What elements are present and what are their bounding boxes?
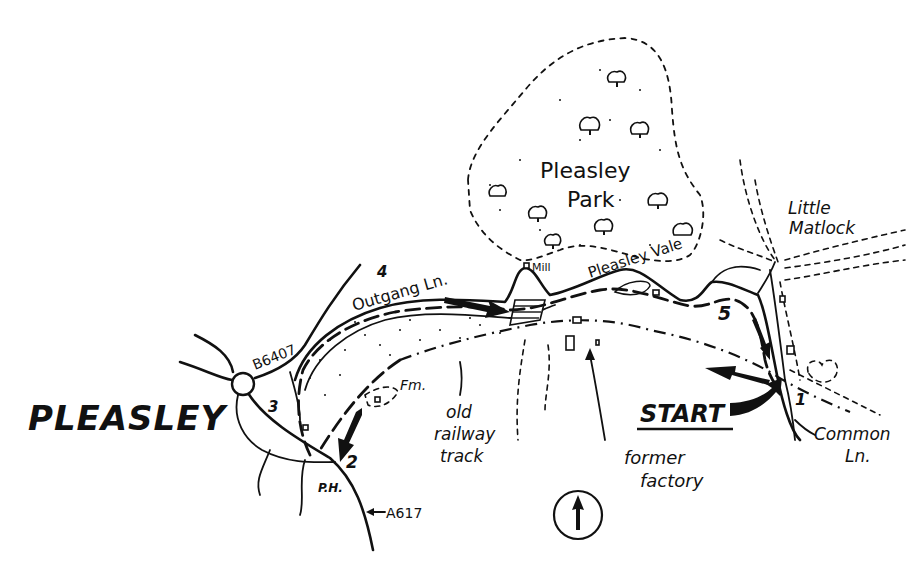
railway-label-1: old <box>446 402 472 422</box>
waypoint-1: 1 <box>795 390 806 409</box>
common-label-1: Common <box>814 424 891 444</box>
railway-pointer <box>460 362 462 395</box>
matlock-label: Matlock <box>789 218 856 238</box>
road-west-2 <box>180 362 232 380</box>
factory-label-1: former <box>624 447 686 468</box>
building <box>573 317 581 323</box>
building <box>375 397 380 402</box>
railway-to-farm <box>320 360 400 450</box>
park-label-2: Park <box>567 187 615 212</box>
building <box>780 296 785 302</box>
start-label: START <box>640 400 726 428</box>
road-spur <box>258 450 270 495</box>
park-boundary <box>468 38 703 261</box>
footpath <box>720 240 775 262</box>
waypoint-2: 2 <box>346 452 358 472</box>
road-spur <box>300 460 305 515</box>
building <box>596 340 599 345</box>
road-little-matlock <box>712 267 760 282</box>
north-arrow-icon <box>572 495 584 530</box>
tree-icon <box>631 122 649 138</box>
a617-label: A617 <box>386 505 422 521</box>
tree-icon <box>673 223 692 235</box>
footpath <box>545 345 549 410</box>
pond-outline <box>808 360 838 382</box>
waypoint-3: 3 <box>268 398 278 416</box>
farm-boundary <box>365 387 398 406</box>
footpath <box>755 180 778 262</box>
railway-label-2: railway <box>434 424 496 444</box>
tree-icon <box>489 185 506 196</box>
factory-pointer-head <box>585 348 595 360</box>
building <box>787 346 794 354</box>
common-lane-pointer <box>795 420 815 435</box>
walk-map: PLEASLEY Pleasley Park Pleasley Vale Lit… <box>0 0 909 577</box>
roundabout <box>232 373 254 395</box>
tree-icon <box>608 71 626 87</box>
arrow-west <box>705 366 770 385</box>
tree-icon <box>648 193 667 209</box>
building <box>303 425 308 430</box>
footpath <box>517 340 525 440</box>
a617-pointer-head <box>366 508 374 516</box>
mill-label: Mill <box>532 261 551 274</box>
road-west-1 <box>195 335 233 372</box>
vale-label: Pleasley Vale <box>586 234 685 281</box>
pub-label: P.H. <box>318 481 343 495</box>
mill-pond <box>510 300 545 325</box>
factory-label-2: factory <box>640 470 704 491</box>
building <box>524 263 529 268</box>
building <box>566 336 574 350</box>
waypoint-4: 4 <box>376 263 387 281</box>
building <box>653 290 659 295</box>
town-label: PLEASLEY <box>28 398 229 438</box>
start-arrow <box>730 378 782 416</box>
railway-label-3: track <box>440 446 484 466</box>
footpath <box>785 260 905 280</box>
footpath <box>740 160 775 260</box>
b6407-label: B6407 <box>250 341 298 373</box>
tree-icon <box>529 206 547 222</box>
footpath <box>785 245 905 268</box>
waypoint-5: 5 <box>718 302 731 324</box>
compass <box>554 491 602 539</box>
farm-label: Fm. <box>400 377 426 393</box>
common-label-2: Ln. <box>845 446 871 466</box>
tree-icon <box>580 117 600 135</box>
little-label: Little <box>788 198 831 218</box>
tree-icon <box>545 234 561 249</box>
tree-icon <box>595 219 613 235</box>
park-label-1: Pleasley <box>540 158 631 183</box>
factory-pointer <box>590 355 605 440</box>
